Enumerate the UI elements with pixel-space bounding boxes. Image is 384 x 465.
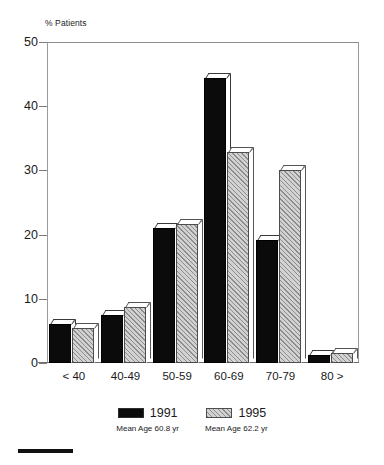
bar-side [249,147,254,363]
y-axis-tick-label: 30 [0,164,38,177]
bar-1995-80> [331,353,353,363]
bar-face [279,170,301,363]
legend-item: 1991 Mean Age 60.8 yr [116,406,179,433]
bar-face [256,240,278,363]
y-axis-tick [39,299,47,300]
bar-cap [229,147,254,152]
bar-side [94,323,99,363]
y-axis-title: % Patients [45,18,87,28]
bar-1995-50-59 [176,224,198,363]
bar-face [176,224,198,363]
bar-1991-40-49 [101,315,123,363]
bar-cap [51,319,76,324]
bar-face [49,324,71,363]
x-axis-labels: < 4040-4950-5960-6970-7980 > [48,370,358,390]
bar-face [124,307,146,363]
bar-face [331,353,353,363]
bar-1995-40-49 [124,307,146,363]
chart-legend: 1991 Mean Age 60.8 yr 1995 Mean Age 62.2… [0,406,384,433]
bar-1991-70-79 [256,240,278,363]
y-axis-tick-label: 20 [0,229,38,242]
x-axis-tick-label: 80 > [302,370,362,382]
bar-side [301,165,306,363]
bar-face [153,228,175,363]
legend-swatch-1995 [206,408,232,418]
legend-label-1995: 1995 [238,406,266,420]
bar-cap [332,348,357,353]
bar-cap [74,323,99,328]
y-axis-tick [39,106,47,107]
bar-1991-<40 [49,324,71,363]
y-axis-tick [39,170,47,171]
bar-face [72,328,94,363]
bars-layer [48,42,358,363]
bar-cap [206,73,231,78]
bar-1995-70-79 [279,170,301,363]
bar-face [227,152,249,363]
bar-1991-80> [308,355,330,363]
bar-side [146,302,151,363]
y-axis-tick [39,42,47,43]
bar-side [198,219,203,363]
y-axis-tick-label: 10 [0,293,38,306]
bar-1995-<40 [72,328,94,363]
bottom-rule [18,449,73,453]
bar-cap [125,302,150,307]
bar-cap [280,165,305,170]
bar-face [101,315,123,363]
bar-face [308,355,330,363]
bar-face [204,78,226,363]
bar-cap [177,219,202,224]
y-axis-tick [39,235,47,236]
legend-sub-1991: Mean Age 60.8 yr [116,424,179,433]
legend-swatch-1991 [118,408,144,418]
legend-sub-1995: Mean Age 62.2 yr [205,424,268,433]
bar-1991-50-59 [153,228,175,363]
y-axis-tick-label: 0 [0,357,38,370]
bar-1991-60-69 [204,78,226,363]
y-axis-tick [39,363,47,364]
legend-item: 1995 Mean Age 62.2 yr [205,406,268,433]
y-axis-tick-label: 40 [0,100,38,113]
bar-chart: % Patients 01020304050 < 4040-4950-5960-… [0,0,384,465]
y-axis-tick-label: 50 [0,36,38,49]
legend-label-1991: 1991 [150,406,178,420]
bar-1995-60-69 [227,152,249,363]
